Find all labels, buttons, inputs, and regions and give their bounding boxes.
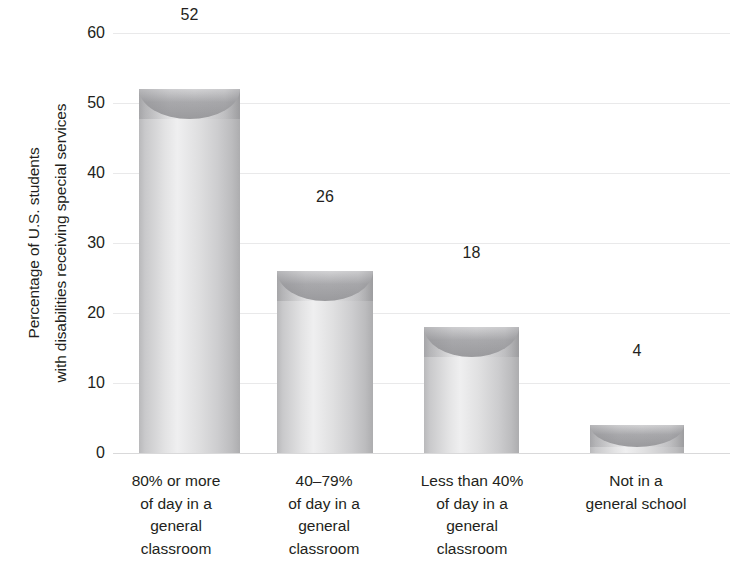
bar-2-top-ellipse	[277, 271, 373, 301]
y-tick-label-30: 30	[61, 235, 105, 251]
bar-2[interactable]	[277, 271, 373, 453]
bar-1-value-label: 52	[139, 7, 240, 23]
x-axis-label-1-line-4: classroom	[105, 538, 247, 561]
x-axis-label-2-line-2: of day in a	[253, 493, 395, 516]
x-axis-label-1-line-3: general	[105, 515, 247, 538]
y-tick-label-10: 10	[61, 375, 105, 391]
bar-4-top-ellipse	[590, 425, 684, 447]
bar-chart: Percentage of U.S. students with disabil…	[0, 0, 753, 579]
bar-1-body	[139, 89, 240, 453]
x-axis-label-1-line-1: 80% or more	[105, 470, 247, 493]
x-axis-label-3-line-4: classroom	[399, 538, 545, 561]
bar-3-value-label: 18	[424, 245, 519, 261]
x-axis-label-3-line-3: general	[399, 515, 545, 538]
gridline-60	[113, 33, 730, 34]
x-axis-label-3-line-2: of day in a	[399, 493, 545, 516]
x-axis-label-4: Not in a general school	[556, 470, 716, 515]
x-axis-label-1-line-2: of day in a	[105, 493, 247, 516]
bar-1-top-ellipse	[139, 89, 240, 119]
bar-3-top-ellipse	[424, 327, 519, 357]
bar-4[interactable]	[590, 425, 684, 453]
y-axis-tick-labels: 60 50 40 30 20 10 0	[57, 33, 105, 453]
x-axis-label-3: Less than 40% of day in a general classr…	[399, 470, 545, 560]
y-tick-label-40: 40	[61, 165, 105, 181]
bar-4-value-label: 4	[590, 343, 684, 359]
gridline-0-baseline	[113, 453, 730, 454]
y-axis-title-line-1: Percentage of U.S. students	[20, 103, 47, 382]
x-axis-label-2-line-3: general	[253, 515, 395, 538]
y-tick-label-20: 20	[61, 305, 105, 321]
y-tick-label-60: 60	[61, 25, 105, 41]
plot-area: 52 26 18 4	[113, 33, 730, 453]
x-axis-label-2-line-4: classroom	[253, 538, 395, 561]
y-tick-label-50: 50	[61, 95, 105, 111]
bar-2-value-label: 26	[277, 189, 373, 205]
x-axis-label-1: 80% or more of day in a general classroo…	[105, 470, 247, 560]
bar-3[interactable]	[424, 327, 519, 453]
x-axis-label-4-line-1: Not in a	[556, 470, 716, 493]
x-axis-label-2: 40–79% of day in a general classroom	[253, 470, 395, 560]
bar-1[interactable]	[139, 89, 240, 453]
x-axis-label-3-line-1: Less than 40%	[399, 470, 545, 493]
y-tick-label-0: 0	[61, 445, 105, 461]
x-axis-label-4-line-2: general school	[556, 493, 716, 516]
x-axis-label-2-line-1: 40–79%	[253, 470, 395, 493]
